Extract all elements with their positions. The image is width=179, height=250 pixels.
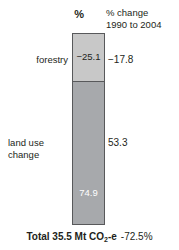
bar-segment-land-use-change: 74.9 bbox=[73, 82, 104, 224]
footer-total-subscript: 2 bbox=[104, 236, 108, 243]
bar-segment-forestry-value: −25.1 bbox=[76, 52, 100, 62]
footer-total: Total 35.5 Mt CO2-e bbox=[26, 231, 116, 242]
row-label-land-use-change-line1: land use bbox=[8, 137, 68, 149]
stacked-bar-chart: % % change 1990 to 2004 −25.1 74.9 fores… bbox=[0, 0, 179, 250]
bar-segment-land-use-change-value: 74.9 bbox=[79, 188, 98, 198]
footer-total-change: -72.5% bbox=[121, 231, 153, 242]
bar-stack: −25.1 74.9 bbox=[72, 33, 105, 225]
change-value-forestry: −17.8 bbox=[108, 54, 133, 65]
row-label-forestry: forestry bbox=[0, 54, 68, 66]
column-header-change-line2: 1990 to 2004 bbox=[106, 19, 179, 31]
bar-segment-forestry: −25.1 bbox=[73, 34, 104, 82]
row-label-land-use-change: land use change bbox=[8, 137, 68, 160]
column-header-change-line1: % change bbox=[106, 7, 179, 19]
footer-total-suffix: -e bbox=[108, 231, 117, 242]
chart-footer: Total 35.5 Mt CO2-e-72.5% bbox=[0, 231, 179, 244]
column-header-change: % change 1990 to 2004 bbox=[106, 7, 179, 30]
column-header-percent: % bbox=[62, 8, 96, 20]
row-label-land-use-change-line2: change bbox=[8, 149, 68, 161]
change-value-land-use-change: 53.3 bbox=[108, 137, 127, 148]
footer-total-prefix: Total 35.5 Mt CO bbox=[26, 231, 104, 242]
